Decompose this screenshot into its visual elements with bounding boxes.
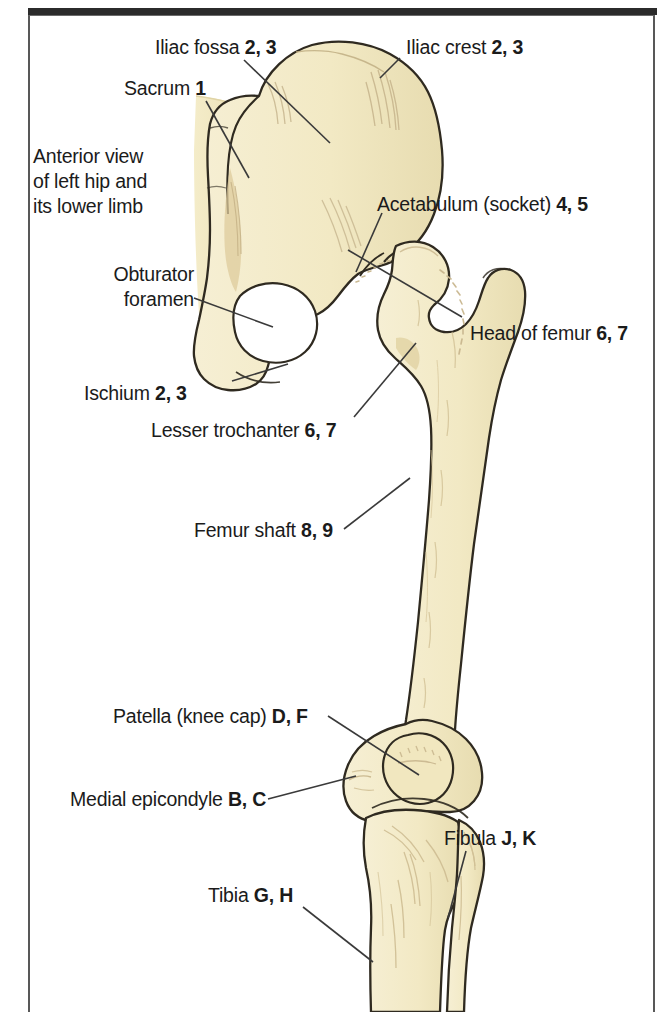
label-iliac-fossa: Iliac fossa 2, 3 xyxy=(155,35,276,60)
label-femur-shaft: Femur shaft 8, 9 xyxy=(194,518,333,543)
label-ischium-keys: 2, 3 xyxy=(155,382,187,404)
label-medial-epicondyle-keys: B, C xyxy=(228,788,266,810)
label-femur-shaft-keys: 8, 9 xyxy=(301,519,333,541)
anatomy-figure: Iliac fossa 2, 3 Iliac crest 2, 3 Sacrum… xyxy=(0,0,660,1018)
caption-line-2: of left hip and xyxy=(33,169,203,194)
label-iliac-crest-keys: 2, 3 xyxy=(491,36,523,58)
label-medial-epicondyle-name: Medial epicondyle xyxy=(70,788,228,810)
label-head-of-femur: Head of femur 6, 7 xyxy=(470,321,628,346)
label-lesser-trochanter-keys: 6, 7 xyxy=(305,419,337,441)
label-tibia: Tibia G, H xyxy=(208,883,293,908)
label-ischium-name: Ischium xyxy=(84,382,155,404)
label-acetabulum-keys: 4, 5 xyxy=(556,193,588,215)
label-fibula-keys: J, K xyxy=(501,827,536,849)
label-patella: Patella (knee cap) D, F xyxy=(113,704,308,729)
label-acetabulum-name: Acetabulum (socket) xyxy=(377,193,556,215)
label-fibula-name: Fibula xyxy=(444,827,501,849)
label-sacrum: Sacrum 1 xyxy=(124,76,206,101)
caption-line-1: Anterior view xyxy=(33,144,203,169)
label-sacrum-name: Sacrum xyxy=(124,77,195,99)
caption-line-3: its lower limb xyxy=(33,194,203,219)
label-sacrum-keys: 1 xyxy=(195,77,206,99)
label-iliac-fossa-name: Iliac fossa xyxy=(155,36,245,58)
figure-caption: Anterior view of left hip and its lower … xyxy=(33,144,203,219)
label-tibia-name: Tibia xyxy=(208,884,254,906)
label-obturator-line-1: Obturator xyxy=(64,262,194,287)
label-lesser-trochanter-name: Lesser trochanter xyxy=(151,419,305,441)
label-iliac-crest-name: Iliac crest xyxy=(406,36,491,58)
label-tibia-keys: G, H xyxy=(254,884,293,906)
label-iliac-fossa-keys: 2, 3 xyxy=(245,36,277,58)
label-ischium: Ischium 2, 3 xyxy=(84,381,187,406)
label-medial-epicondyle: Medial epicondyle B, C xyxy=(70,787,266,812)
label-iliac-crest: Iliac crest 2, 3 xyxy=(406,35,523,60)
label-lesser-trochanter: Lesser trochanter 6, 7 xyxy=(151,418,336,443)
label-acetabulum: Acetabulum (socket) 4, 5 xyxy=(377,192,588,217)
label-patella-name: Patella (knee cap) xyxy=(113,705,272,727)
label-obturator-line-2: foramen xyxy=(64,287,194,312)
label-head-of-femur-keys: 6, 7 xyxy=(596,322,628,344)
top-rule-divider xyxy=(28,8,657,15)
label-femur-shaft-name: Femur shaft xyxy=(194,519,301,541)
label-obturator-foramen: Obturator foramen xyxy=(64,262,194,312)
label-patella-keys: D, F xyxy=(272,705,308,727)
label-head-of-femur-name: Head of femur xyxy=(470,322,596,344)
label-fibula: Fibula J, K xyxy=(444,826,536,851)
